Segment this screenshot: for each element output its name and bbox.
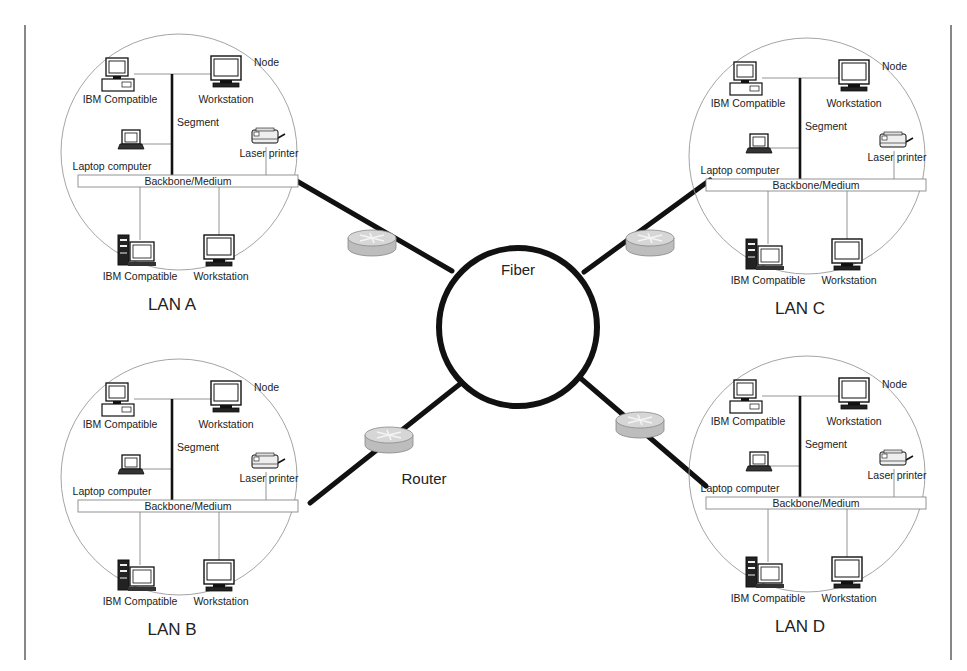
desktop-computer-icon <box>102 58 134 91</box>
workstation-icon <box>832 557 862 588</box>
laptop-label: Laptop computer <box>701 164 780 176</box>
laser-printer-icon <box>880 450 913 465</box>
workstation-label: Workstation <box>193 595 248 607</box>
lan-name-label: LAN C <box>775 299 825 318</box>
laptop-label: Laptop computer <box>73 485 152 497</box>
workstation-icon <box>839 60 869 91</box>
laptop-icon <box>118 455 144 474</box>
segment-label: Segment <box>177 441 219 453</box>
tower-computer-icon <box>118 235 156 266</box>
laser-printer-icon <box>880 132 913 147</box>
network-diagram: Fiber Router Backbone/MediumIBM Compatib… <box>0 0 967 671</box>
workstation-label: Workstation <box>826 415 881 427</box>
router-label: Router <box>401 470 446 487</box>
desktop-computer-icon <box>730 62 762 95</box>
segment-label: Segment <box>805 120 847 132</box>
lan-name-label: LAN B <box>147 620 196 639</box>
node-label: Node <box>882 60 907 72</box>
workstation-icon <box>832 239 862 270</box>
segment-label: Segment <box>805 438 847 450</box>
laptop-icon <box>118 130 144 149</box>
router-icon-c <box>626 230 674 256</box>
ibm-compatible-label: IBM Compatible <box>83 93 158 105</box>
lan-name-label: LAN A <box>148 295 197 314</box>
ibm-compatible-label: IBM Compatible <box>83 418 158 430</box>
laser-printer-label: Laser printer <box>240 472 299 484</box>
lan-b: Backbone/MediumIBM CompatibleWorkstation… <box>61 359 299 639</box>
router-icon-b <box>365 427 413 453</box>
ibm-compatible-label: IBM Compatible <box>731 592 806 604</box>
laser-printer-label: Laser printer <box>868 151 927 163</box>
workstation-label: Workstation <box>198 418 253 430</box>
workstation-label: Workstation <box>193 270 248 282</box>
ibm-compatible-label: IBM Compatible <box>711 415 786 427</box>
router-icon-d <box>616 412 664 438</box>
ibm-compatible-label: IBM Compatible <box>731 274 806 286</box>
workstation-icon <box>211 381 241 412</box>
workstation-icon <box>211 56 241 87</box>
laptop-label: Laptop computer <box>701 482 780 494</box>
tower-computer-icon <box>118 560 156 591</box>
desktop-computer-icon <box>730 380 762 413</box>
lan-a: Backbone/MediumIBM CompatibleWorkstation… <box>61 34 299 314</box>
backbone-label: Backbone/Medium <box>145 500 232 512</box>
ibm-compatible-label: IBM Compatible <box>711 97 786 109</box>
workstation-icon <box>839 378 869 409</box>
segment-label: Segment <box>177 116 219 128</box>
backbone-label: Backbone/Medium <box>773 179 860 191</box>
router-icon-a <box>348 230 396 256</box>
node-label: Node <box>254 56 279 68</box>
laptop-icon <box>746 134 772 153</box>
node-label: Node <box>882 378 907 390</box>
workstation-icon <box>204 560 234 591</box>
lan-c: Backbone/MediumIBM CompatibleWorkstation… <box>689 38 927 318</box>
workstation-icon <box>204 235 234 266</box>
node-label: Node <box>254 381 279 393</box>
laptop-icon <box>746 452 772 471</box>
lan-d: Backbone/MediumIBM CompatibleWorkstation… <box>689 356 927 636</box>
laser-printer-label: Laser printer <box>240 147 299 159</box>
fiber-label: Fiber <box>501 261 535 278</box>
laser-printer-icon <box>252 453 285 468</box>
ibm-compatible-label: IBM Compatible <box>103 595 178 607</box>
laser-printer-icon <box>252 128 285 143</box>
workstation-label: Workstation <box>198 93 253 105</box>
tower-computer-icon <box>746 557 784 588</box>
desktop-computer-icon <box>102 383 134 416</box>
workstation-label: Workstation <box>821 274 876 286</box>
backbone-label: Backbone/Medium <box>773 497 860 509</box>
laptop-label: Laptop computer <box>73 160 152 172</box>
lan-name-label: LAN D <box>775 617 825 636</box>
ibm-compatible-label: IBM Compatible <box>103 270 178 282</box>
laser-printer-label: Laser printer <box>868 469 927 481</box>
backbone-label: Backbone/Medium <box>145 175 232 187</box>
tower-computer-icon <box>746 239 784 270</box>
workstation-label: Workstation <box>826 97 881 109</box>
workstation-label: Workstation <box>821 592 876 604</box>
